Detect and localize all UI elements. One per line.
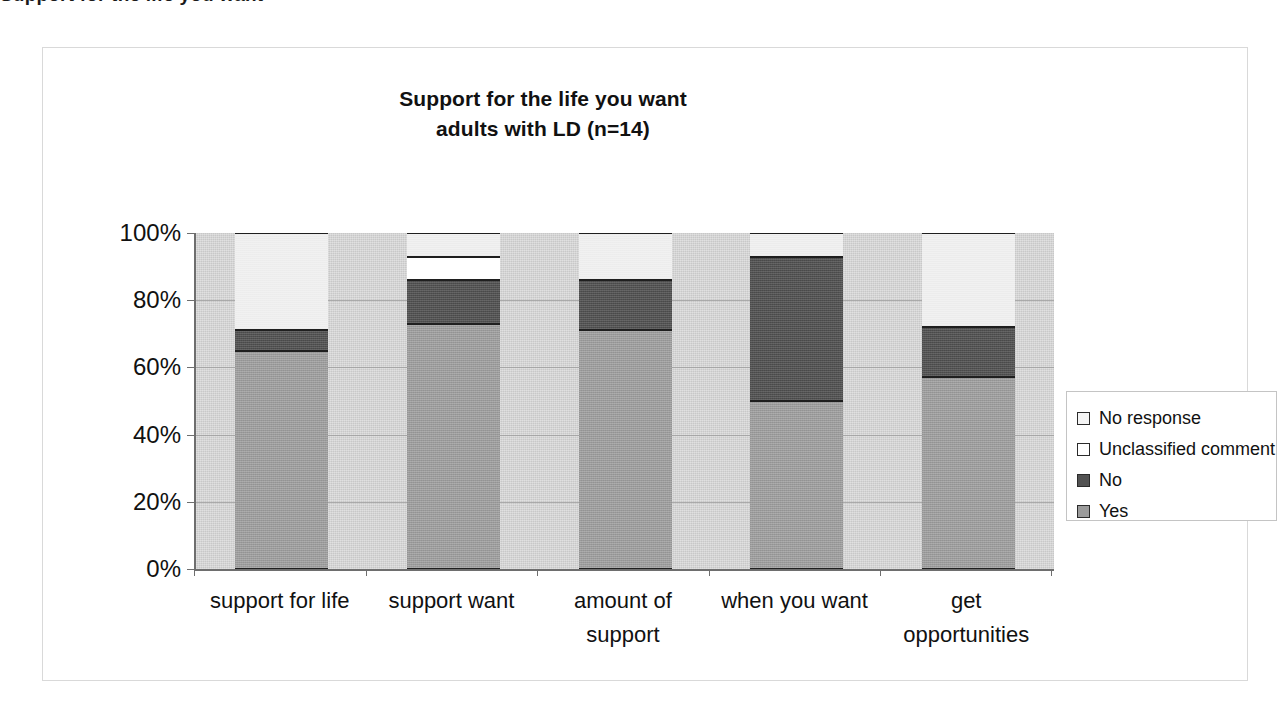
legend-item[interactable]: Unclassified comment — [1077, 434, 1276, 465]
x-axis-category-label: support for life — [194, 584, 366, 618]
bar-segment — [922, 377, 1015, 569]
clipped-header-text: Support for the life you want — [0, 0, 700, 6]
x-axis-category-label: when you want — [709, 584, 881, 618]
chart-legend: No responseUnclassified commentNoYes — [1066, 391, 1277, 521]
x-axis-category-label: amount ofsupport — [537, 584, 709, 652]
chart-frame: Support for the life you want adults wit… — [42, 47, 1248, 681]
x-axis-category-label: getopportunities — [880, 584, 1052, 652]
legend-item[interactable]: No response — [1077, 403, 1276, 434]
y-axis-tick — [187, 233, 194, 234]
bar-stack — [579, 233, 671, 569]
bar-segment — [750, 257, 843, 401]
x-axis-category-label-line: support for life — [194, 584, 366, 618]
bar-segment — [579, 280, 672, 330]
x-axis-ticks — [194, 569, 1054, 577]
y-axis-tick — [187, 435, 194, 436]
bar-stack — [922, 233, 1014, 569]
x-axis-category-label-line: opportunities — [880, 618, 1052, 652]
y-axis-tick — [187, 502, 194, 503]
bar-segment — [922, 327, 1015, 377]
y-axis-tick-label: 40% — [71, 421, 181, 449]
bar-segment — [579, 330, 672, 569]
x-axis-tick — [366, 569, 367, 576]
y-axis-tick — [187, 300, 194, 301]
bar-segment — [407, 257, 500, 281]
legend-item-label: Yes — [1099, 501, 1128, 522]
bar-stack — [407, 233, 499, 569]
legend-item[interactable]: No — [1077, 465, 1276, 496]
bar-segment — [235, 330, 328, 350]
x-axis-category-label-line: support — [537, 618, 709, 652]
y-axis-tick-label: 0% — [71, 555, 181, 583]
x-axis-category-label-line: when you want — [709, 584, 881, 618]
plot-area — [194, 233, 1054, 571]
legend-item-label: No response — [1099, 408, 1201, 429]
y-axis-labels: 0%20%40%60%80%100% — [63, 233, 181, 569]
x-axis-tick — [1051, 569, 1052, 576]
bar-stack — [236, 233, 328, 569]
bar-segment — [579, 233, 672, 280]
legend-item-label: No — [1099, 470, 1122, 491]
legend-swatch-icon — [1077, 443, 1090, 456]
bar-segment — [750, 401, 843, 569]
x-axis-category-label-line: get — [880, 584, 1052, 618]
x-axis-tick — [537, 569, 538, 576]
bar-segment — [750, 233, 843, 257]
x-axis-tick — [709, 569, 710, 576]
x-axis-labels: support for lifesupport wantamount ofsup… — [194, 584, 1052, 664]
y-axis-tick-label: 20% — [71, 488, 181, 516]
legend-swatch-icon — [1077, 474, 1090, 487]
x-axis-category-label-line: support want — [366, 584, 538, 618]
bar-segment — [922, 233, 1015, 327]
legend-item[interactable]: Yes — [1077, 496, 1276, 527]
bar-segment — [235, 233, 328, 330]
bar-segment — [407, 280, 500, 324]
x-axis-category-label: support want — [366, 584, 538, 618]
y-axis-tick-label: 80% — [71, 286, 181, 314]
bar-segment — [407, 233, 500, 257]
legend-swatch-icon — [1077, 412, 1090, 425]
y-axis-tick — [187, 367, 194, 368]
y-axis-tick-label: 100% — [71, 219, 181, 247]
y-axis-tick-label: 60% — [71, 353, 181, 381]
bar-segment — [407, 324, 500, 569]
x-axis-category-label-line: amount of — [537, 584, 709, 618]
x-axis-tick — [194, 569, 195, 576]
chart-title: Support for the life you want adults wit… — [43, 84, 1043, 144]
y-axis-tick — [187, 569, 194, 570]
legend-item-label: Unclassified comment — [1099, 439, 1275, 460]
bar-stack — [751, 233, 843, 569]
bar-segment — [235, 351, 328, 569]
legend-swatch-icon — [1077, 505, 1090, 518]
chart-title-line-1: Support for the life you want — [43, 84, 1043, 114]
chart-title-line-2: adults with LD (n=14) — [43, 114, 1043, 144]
x-axis-tick — [880, 569, 881, 576]
